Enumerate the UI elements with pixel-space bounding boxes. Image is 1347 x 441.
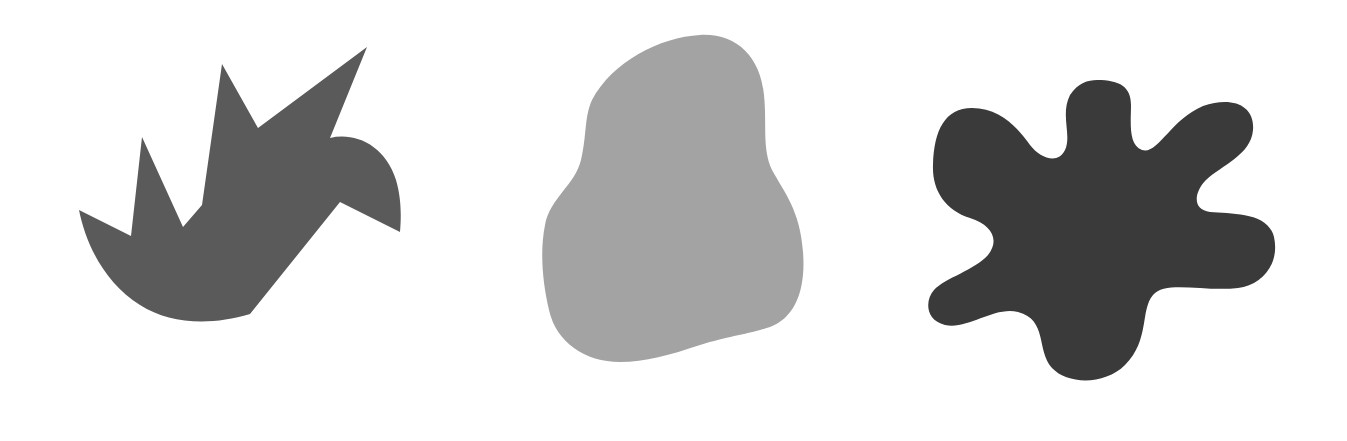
- angular-bird-shape: [79, 47, 401, 394]
- shapes-stage: [0, 0, 1347, 441]
- rounded-blob-shape: [542, 35, 803, 362]
- splat-blob-shape: [928, 80, 1275, 380]
- canvas: [0, 0, 1347, 441]
